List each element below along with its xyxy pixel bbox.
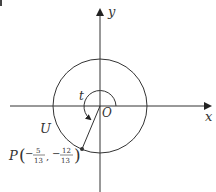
close-paren: ) bbox=[74, 145, 81, 165]
x-axis-label: x bbox=[205, 109, 213, 124]
y-sign: − bbox=[52, 148, 60, 159]
point-name: P bbox=[8, 148, 18, 163]
y-denominator: 13 bbox=[61, 157, 70, 165]
y-axis-label: y bbox=[107, 4, 116, 19]
edge-mark bbox=[0, 0, 2, 6]
x-denominator: 13 bbox=[34, 157, 43, 165]
x-sign: − bbox=[25, 148, 33, 159]
point-label: P ( − 5 13 , − 12 13 ) bbox=[8, 145, 81, 165]
x-numerator: 5 bbox=[36, 147, 40, 155]
y-numerator: 12 bbox=[62, 147, 71, 155]
angle-label: t bbox=[79, 89, 84, 103]
comma: , bbox=[46, 151, 49, 162]
origin-label: O bbox=[102, 106, 112, 120]
unit-circle-diagram: y x O t U P ( − 5 13 , − 12 13 ) bbox=[0, 0, 216, 192]
circle-label: U bbox=[40, 121, 52, 136]
